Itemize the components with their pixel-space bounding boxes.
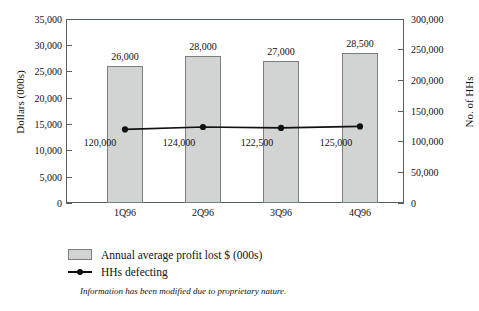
bar-value-3q96: 27,000 — [251, 47, 311, 57]
category-label-2q96: 2Q96 — [173, 208, 233, 218]
left-tick-label: 35,000 — [35, 15, 63, 25]
left-tick-label: 20,000 — [35, 94, 63, 104]
left-tickmark — [66, 150, 72, 151]
left-tick-label: 30,000 — [35, 41, 63, 51]
right-tickmark — [398, 19, 404, 20]
bar-value-1q96: 26,000 — [95, 52, 155, 62]
left-axis-ticks: 35,000 30,000 25,000 20,000 15,000 10,00… — [16, 0, 62, 311]
category-label-3q96: 3Q96 — [251, 208, 311, 218]
chart-footnote: Information has been modified due to pro… — [80, 286, 286, 296]
right-tick-label: 250,000 — [411, 45, 444, 55]
bar-4q96[interactable] — [342, 53, 378, 203]
right-axis-ticks: 300,000 250,000 200,000 150,000 100,000 … — [411, 0, 467, 311]
right-tickmark — [398, 141, 404, 142]
legend-line-dot-icon — [68, 266, 92, 277]
right-tick-label: 100,000 — [411, 137, 444, 147]
left-tickmark — [66, 45, 72, 46]
right-tickmark — [398, 49, 404, 50]
right-tick-label: 150,000 — [411, 107, 444, 117]
bar-3q96[interactable] — [263, 61, 299, 203]
line-value-2q96: 124,000 — [147, 138, 211, 148]
line-value-3q96: 122,500 — [224, 138, 290, 148]
category-label-1q96: 1Q96 — [95, 208, 155, 218]
chart-legend: Annual average profit lost $ (000s) HHs … — [68, 246, 388, 280]
right-tick-label: 200,000 — [411, 76, 444, 86]
right-axis-title: No. of HHs — [463, 52, 475, 152]
legend-item-profit-lost[interactable]: Annual average profit lost $ (000s) — [68, 246, 388, 263]
right-tick-label: 50,000 — [411, 168, 439, 178]
bar-value-2q96: 28,000 — [173, 42, 233, 52]
left-tickmark — [66, 124, 72, 125]
category-label-4q96: 4Q96 — [330, 208, 390, 218]
left-tickmark — [66, 19, 72, 20]
right-tickmark — [398, 172, 404, 173]
left-tick-label: 15,000 — [35, 120, 63, 130]
right-tickmark — [398, 80, 404, 81]
left-tickmark — [66, 71, 72, 72]
line-value-1q96: 120,000 — [68, 138, 132, 148]
legend-swatch-icon — [68, 249, 92, 260]
left-tick-label: 5,000 — [40, 173, 63, 183]
left-tick-label: 0 — [57, 199, 62, 209]
legend-item-hhs-defecting[interactable]: HHs defecting — [68, 263, 388, 280]
bar-1q96[interactable] — [107, 66, 143, 203]
bar-value-4q96: 28,500 — [330, 39, 390, 49]
right-tick-label: 300,000 — [411, 15, 444, 25]
legend-label-profit-lost: Annual average profit lost $ (000s) — [101, 249, 262, 261]
chart-figure: 35,000 30,000 25,000 20,000 15,000 10,00… — [0, 0, 479, 311]
bar-2q96[interactable] — [185, 56, 221, 203]
left-tickmark — [66, 203, 72, 204]
right-tickmark — [398, 203, 404, 204]
left-tick-label: 25,000 — [35, 67, 63, 77]
legend-label-hhs-defecting: HHs defecting — [101, 266, 168, 278]
left-tickmark — [66, 98, 72, 99]
left-axis-title: Dollars (000s) — [14, 52, 26, 152]
line-value-4q96: 125,000 — [304, 138, 368, 148]
right-tick-label: 0 — [411, 199, 416, 209]
left-tickmark — [66, 177, 72, 178]
right-tickmark — [398, 111, 404, 112]
left-tick-label: 10,000 — [35, 146, 63, 156]
